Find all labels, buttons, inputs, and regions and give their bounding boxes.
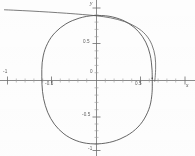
data-curve-upper-branch — [4, 10, 155, 81]
x-axis-label: x — [186, 83, 188, 88]
x-tick-label-zero: 0 — [90, 70, 93, 75]
x-tick-label-neg1: -1 — [3, 70, 7, 75]
x-tick-label-0.5: 0.5 — [135, 82, 142, 87]
y-axis-label: y — [90, 1, 92, 6]
x-tick-label-neg0.5: -0.5 — [45, 82, 53, 87]
plot-figure: -1 -0.5 0 0.5 0.5 -0.5 -1 y x — [0, 0, 195, 156]
plot-canvas — [0, 0, 195, 156]
y-tick-label-neg0.5: -0.5 — [82, 113, 90, 118]
y-tick-label-neg1: -1 — [88, 147, 92, 152]
data-curve-closed-loop — [42, 15, 153, 143]
y-tick-label-0.5: 0.5 — [83, 40, 90, 45]
